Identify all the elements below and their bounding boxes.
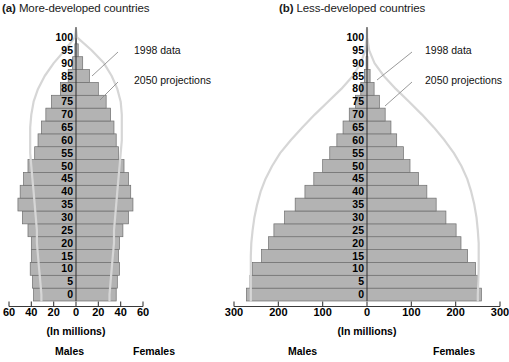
age-group-label: 60 — [42, 135, 73, 146]
x-tick-label: 200 — [446, 306, 464, 318]
age-band-bar — [253, 262, 476, 275]
age-group-label: 100 — [42, 32, 73, 43]
age-group-label: 80 — [42, 83, 73, 94]
x-tick-label: 20 — [48, 306, 60, 318]
x-tick-label: 20 — [92, 306, 104, 318]
panel-more-developed: (a) More-developed countries 05101520253… — [0, 0, 254, 362]
x-tick-label: 40 — [25, 306, 37, 318]
males-label: Males — [55, 345, 84, 357]
age-band-bar — [73, 57, 83, 70]
annotation-1998-data: 1998 data — [425, 44, 472, 56]
age-group-label: 50 — [42, 161, 73, 172]
age-group-label: 0 — [333, 289, 364, 300]
x-tick-label: 100 — [402, 306, 420, 318]
population-pyramid-figure: (a) More-developed countries 05101520253… — [0, 0, 509, 362]
age-band-bar — [305, 185, 427, 198]
leader-line-1998 — [377, 52, 412, 80]
pyramid-bars — [18, 31, 133, 301]
panel-less-developed: (b) Less-developed countries 05101520253… — [255, 0, 509, 362]
females-label: Females — [433, 345, 475, 357]
age-group-label: 95 — [333, 45, 364, 56]
age-band-bar — [22, 211, 128, 224]
x-tick-label: 200 — [269, 306, 287, 318]
age-group-label: 60 — [333, 135, 364, 146]
age-group-label: 75 — [333, 96, 364, 107]
age-group-label: 100 — [333, 32, 364, 43]
age-group-label: 85 — [42, 71, 73, 82]
age-group-label: 55 — [42, 148, 73, 159]
age-band-bar — [75, 44, 78, 57]
age-group-label: 10 — [42, 263, 73, 274]
age-group-label: 75 — [42, 96, 73, 107]
x-tick-label: 0 — [364, 306, 370, 318]
age-group-label: 5 — [42, 276, 73, 287]
age-group-label: 70 — [42, 109, 73, 120]
x-tick-label: 100 — [313, 306, 331, 318]
leader-line-2050 — [100, 82, 118, 100]
age-group-label: 20 — [333, 238, 364, 249]
age-group-label: 0 — [42, 289, 73, 300]
annotation-2050-projections: 2050 projections — [425, 74, 502, 86]
annotation-1998-data: 1998 data — [134, 44, 181, 56]
age-band-bar — [314, 172, 419, 185]
annotation-2050-projections: 2050 projections — [134, 74, 211, 86]
age-group-label: 25 — [333, 225, 364, 236]
x-tick-label: 300 — [225, 306, 243, 318]
age-group-label: 35 — [333, 199, 364, 210]
age-band-bar — [20, 185, 131, 198]
age-group-label: 55 — [333, 148, 364, 159]
age-band-bar — [269, 237, 461, 250]
x-tick-label: 60 — [137, 306, 149, 318]
age-group-label: 90 — [42, 58, 73, 69]
age-group-label: 80 — [333, 83, 364, 94]
females-label: Females — [133, 345, 175, 357]
age-group-label: 40 — [42, 186, 73, 197]
x-tick-label: 0 — [73, 306, 79, 318]
age-group-label: 15 — [333, 251, 364, 262]
age-group-label: 5 — [333, 276, 364, 287]
age-band-bar — [295, 198, 436, 211]
axis-caption: (In millions) — [47, 325, 106, 337]
age-band-bar — [261, 250, 467, 263]
age-group-label: 50 — [333, 161, 364, 172]
leader-line-2050 — [385, 82, 412, 106]
age-group-label: 30 — [333, 212, 364, 223]
x-tick-label: 300 — [491, 306, 509, 318]
age-group-label: 40 — [333, 186, 364, 197]
age-group-label: 35 — [42, 199, 73, 210]
axis-caption: (In millions) — [338, 325, 397, 337]
age-group-label: 65 — [333, 122, 364, 133]
age-group-label: 30 — [42, 212, 73, 223]
age-group-label: 45 — [333, 173, 364, 184]
x-tick-label: 40 — [115, 306, 127, 318]
age-group-label: 95 — [42, 45, 73, 56]
age-band-bar — [285, 211, 446, 224]
panel-a-svg — [0, 0, 254, 362]
age-group-label: 70 — [333, 109, 364, 120]
panel-a-plot — [0, 0, 254, 362]
age-group-label: 45 — [42, 173, 73, 184]
x-tick-label: 60 — [3, 306, 15, 318]
age-group-label: 10 — [333, 263, 364, 274]
age-group-label: 65 — [42, 122, 73, 133]
males-label: Males — [288, 345, 317, 357]
age-group-label: 20 — [42, 238, 73, 249]
age-band-bar — [274, 224, 456, 237]
age-group-label: 15 — [42, 251, 73, 262]
age-group-label: 25 — [42, 225, 73, 236]
age-group-label: 90 — [333, 58, 364, 69]
age-group-label: 85 — [333, 71, 364, 82]
